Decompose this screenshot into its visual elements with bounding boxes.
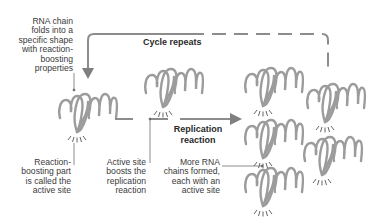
fold-label: RNA chain folds into a specific shape wi… (8, 17, 73, 73)
new-rna-chain-2 (307, 84, 365, 133)
new-rna-chain-3 (245, 120, 303, 169)
replication-reaction-label: Replication reaction (158, 124, 238, 145)
active-site-definition-label: Reaction- boosting part is called the ac… (8, 158, 71, 196)
folded-rna-chain (59, 94, 117, 143)
arrowhead-down-icon (82, 68, 94, 79)
active-site-boost-label: Active site boosts the replication react… (90, 158, 146, 196)
more-chains-label: More RNA chains formed, each with an act… (158, 158, 220, 196)
cycle-arrow (82, 34, 328, 79)
rna-chain-active (145, 69, 203, 118)
new-rna-chain-5 (245, 168, 303, 217)
new-rna-chain-4 (304, 137, 362, 186)
cycle-repeats-label: Cycle repeats (143, 37, 202, 48)
new-rna-chain-1 (245, 68, 303, 117)
